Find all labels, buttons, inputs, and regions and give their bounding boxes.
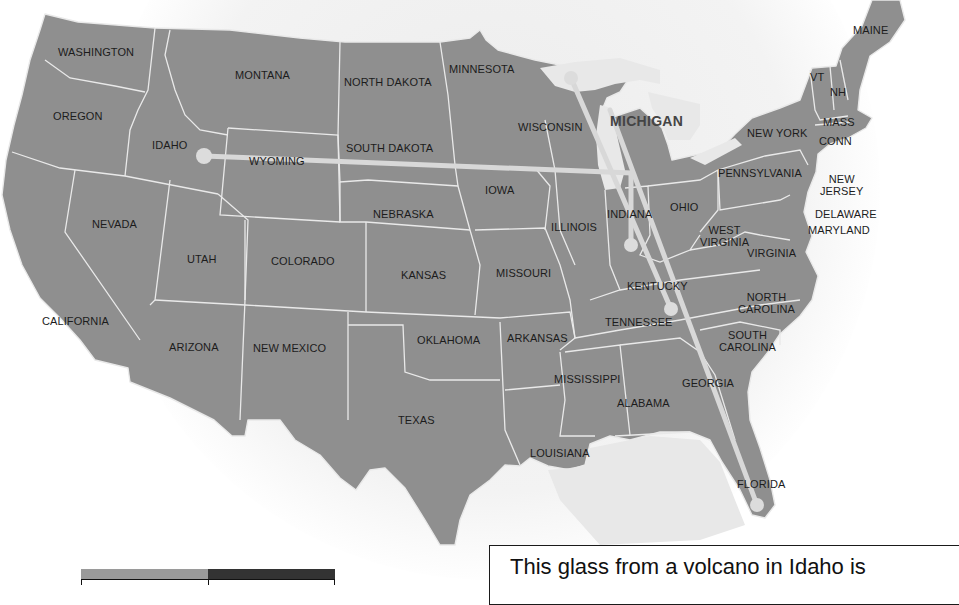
state-label-minnesota: MINNESOTA bbox=[449, 63, 514, 75]
state-label-washington: WASHINGTON bbox=[58, 46, 134, 58]
us-landmass bbox=[2, 0, 905, 545]
state-label-pennsylvania: PENNSYLVANIA bbox=[718, 167, 802, 179]
state-label-new-hampshire: NH bbox=[830, 86, 846, 98]
dot-michigan bbox=[564, 71, 578, 85]
state-label-south-dakota: SOUTH DAKOTA bbox=[346, 142, 433, 154]
state-label-georgia: GEORGIA bbox=[682, 377, 734, 389]
state-label-virginia: VIRGINIA bbox=[747, 247, 796, 259]
state-label-california: CALIFORNIA bbox=[42, 315, 109, 327]
dot-tennessee bbox=[664, 302, 678, 316]
michigan-label: MICHIGAN bbox=[610, 115, 683, 127]
state-label-utah: UTAH bbox=[187, 253, 217, 265]
state-label-connecticut: CONN bbox=[819, 135, 852, 147]
state-label-colorado: COLORADO bbox=[271, 255, 335, 267]
legend-tick bbox=[208, 579, 209, 585]
state-label-delaware: DELAWARE bbox=[815, 208, 877, 220]
state-label-missouri: MISSOURI bbox=[496, 267, 551, 279]
state-label-new-york: NEW YORK bbox=[747, 127, 808, 139]
legend-swatch-light bbox=[81, 569, 208, 579]
legend-bar bbox=[81, 569, 335, 583]
state-label-kentucky: KENTUCKY bbox=[627, 280, 688, 292]
state-label-montana: MONTANA bbox=[235, 69, 290, 81]
state-label-arkansas: ARKANSAS bbox=[507, 332, 568, 344]
caption-box: This glass from a volcano in Idaho is bbox=[489, 545, 959, 605]
state-label-ohio: OHIO bbox=[670, 201, 699, 213]
state-label-maryland: MARYLAND bbox=[808, 224, 870, 236]
state-label-kansas: KANSAS bbox=[401, 269, 446, 281]
state-label-idaho: IDAHO bbox=[152, 139, 187, 151]
state-label-louisiana: LOUISIANA bbox=[530, 447, 590, 459]
legend-tick bbox=[334, 579, 335, 585]
state-label-indiana: INDIANA bbox=[607, 208, 652, 220]
state-label-vermont: VT bbox=[810, 71, 824, 83]
state-label-nevada: NEVADA bbox=[92, 218, 137, 230]
state-label-south-carolina: SOUTHCAROLINA bbox=[719, 329, 776, 353]
state-label-illinois: ILLINOIS bbox=[551, 221, 597, 233]
dot-idaho bbox=[196, 148, 212, 164]
state-label-iowa: IOWA bbox=[485, 184, 514, 196]
state-label-new-mexico: NEW MEXICO bbox=[253, 342, 326, 354]
state-label-north-dakota: NORTH DAKOTA bbox=[344, 76, 432, 88]
state-label-maine: MAINE bbox=[853, 24, 888, 36]
state-label-mississippi: MISSISSIPPI bbox=[554, 373, 621, 385]
state-label-arizona: ARIZONA bbox=[169, 341, 219, 353]
state-label-oklahoma: OKLAHOMA bbox=[417, 334, 480, 346]
caption-text: This glass from a volcano in Idaho is bbox=[510, 554, 866, 579]
state-label-oregon: OREGON bbox=[53, 110, 103, 122]
state-label-wisconsin: WISCONSIN bbox=[518, 121, 582, 133]
state-label-massachusetts: MASS bbox=[823, 116, 855, 128]
state-label-tennessee: TENNESSEE bbox=[605, 316, 673, 328]
state-label-wyoming: WYOMING bbox=[249, 155, 305, 167]
state-label-north-carolina: NORTHCAROLINA bbox=[738, 291, 795, 315]
dot-florida bbox=[750, 498, 764, 512]
state-label-alabama: ALABAMA bbox=[617, 397, 670, 409]
state-label-west-virginia: WESTVIRGINIA bbox=[700, 224, 749, 248]
dot-indiana bbox=[624, 238, 638, 252]
state-label-texas: TEXAS bbox=[398, 414, 435, 426]
legend-tick bbox=[81, 579, 82, 585]
state-label-nebraska: NEBRASKA bbox=[373, 208, 434, 220]
state-label-florida: FLORIDA bbox=[737, 478, 785, 490]
legend-swatch-dark bbox=[208, 569, 335, 579]
state-label-new-jersey: NEWJERSEY bbox=[820, 173, 863, 197]
